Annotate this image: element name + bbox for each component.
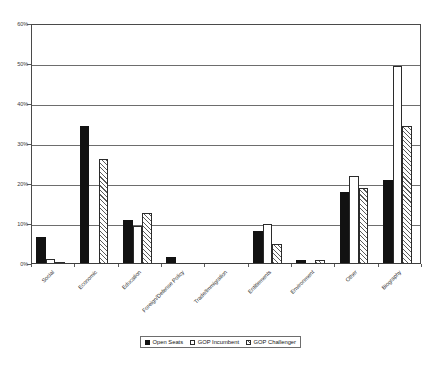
legend-item: GOP Challenger xyxy=(246,339,296,345)
bar xyxy=(402,126,412,264)
x-axis-tick-mark xyxy=(334,264,335,267)
x-axis-tick-mark xyxy=(118,264,119,267)
legend-label: GOP Challenger xyxy=(254,339,296,345)
bar xyxy=(253,231,263,264)
y-axis-tick-label: 20% xyxy=(2,181,28,187)
bar xyxy=(80,126,90,264)
x-axis-tick-label: Trade/Immigration xyxy=(193,269,229,305)
y-axis-tick-label: 60% xyxy=(2,21,28,27)
bar-group xyxy=(248,24,291,264)
x-axis-tick-label: Foreign/Defense Policy xyxy=(141,269,185,313)
bar-group xyxy=(204,24,247,264)
y-axis-tick-label: 40% xyxy=(2,101,28,107)
bar-group xyxy=(74,24,117,264)
y-axis-tick-label: 50% xyxy=(2,61,28,67)
legend-item: GOP Incumbent xyxy=(190,339,239,345)
bar xyxy=(123,220,133,264)
bar-group xyxy=(378,24,421,264)
x-axis-tick-label: Entitlements xyxy=(246,269,272,295)
bar-chart: 0%10%20%30%40%50%60% SocialEconomicEduca… xyxy=(0,0,433,367)
bar xyxy=(349,176,359,264)
x-axis-tick-mark xyxy=(291,264,292,267)
bar xyxy=(142,213,152,264)
x-axis-tick-label: Other xyxy=(345,269,359,283)
legend-label: GOP Incumbent xyxy=(198,339,239,345)
x-axis-tick-label: Biography xyxy=(380,269,402,291)
bar-group xyxy=(161,24,204,264)
x-axis-tick-mark xyxy=(421,264,422,267)
chart-legend: Open SeatsGOP IncumbentGOP Challenger xyxy=(140,336,301,348)
legend-label: Open Seats xyxy=(153,339,184,345)
bar xyxy=(383,180,393,264)
y-axis-tick-label: 30% xyxy=(2,141,28,147)
x-axis-tick-mark xyxy=(378,264,379,267)
bar-group xyxy=(118,24,161,264)
bar-group xyxy=(291,24,334,264)
bar xyxy=(340,192,350,264)
x-axis-tick-mark xyxy=(74,264,75,267)
x-axis-tick-mark xyxy=(248,264,249,267)
x-axis-tick-label: Education xyxy=(120,269,142,291)
bar xyxy=(359,188,369,264)
legend-item: Open Seats xyxy=(145,339,183,345)
x-axis-tick-label: Social xyxy=(40,269,55,284)
bar xyxy=(393,66,403,264)
bar-group xyxy=(31,24,74,264)
x-axis-tick-mark xyxy=(161,264,162,267)
y-axis-tick-label: 0% xyxy=(2,261,28,267)
bar xyxy=(133,226,143,264)
x-axis-tick-label: Environment xyxy=(289,269,315,295)
bars-layer xyxy=(31,24,421,264)
bar xyxy=(272,244,282,264)
legend-swatch-icon xyxy=(145,340,150,345)
x-axis-tick-mark xyxy=(204,264,205,267)
bar xyxy=(36,237,46,264)
bar-group xyxy=(334,24,377,264)
legend-swatch-icon xyxy=(246,340,251,345)
x-axis-line xyxy=(31,263,421,264)
y-axis-tick-label: 10% xyxy=(2,221,28,227)
x-axis-tick-label: Economic xyxy=(77,269,98,290)
legend-swatch-icon xyxy=(190,340,195,345)
bar xyxy=(263,224,273,264)
bar xyxy=(99,159,109,264)
x-axis-tick-mark xyxy=(31,264,32,267)
